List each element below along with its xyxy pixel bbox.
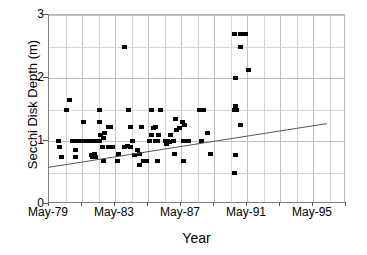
x-tick-label: May-83 [79, 206, 149, 219]
x-tick-mark [312, 202, 313, 206]
x-axis-tick-labels: May-79May-83May-87May-91May-95 [48, 206, 345, 226]
y-axis-tick-labels: 0123 [0, 14, 44, 203]
x-tick-label: May-91 [211, 206, 281, 219]
x-tick-mark [114, 202, 115, 206]
y-tick-label: 2 [4, 71, 44, 83]
secchi-disk-depth-chart: Secchi Disk Depth (m) 0123 May-79May-83M… [0, 0, 367, 255]
x-tick-label: May-87 [145, 206, 215, 219]
x-tick-mark [246, 202, 247, 206]
x-tick-mark [345, 202, 346, 206]
x-tick-mark [48, 202, 49, 206]
x-tick-mark [147, 202, 148, 206]
trendline [48, 14, 345, 203]
y-tick-label: 3 [4, 8, 44, 20]
x-tick-label: May-95 [277, 206, 347, 219]
x-tick-mark [81, 202, 82, 206]
x-tick-mark [213, 202, 214, 206]
y-tick-label: 1 [4, 134, 44, 146]
x-tick-mark [279, 202, 280, 206]
x-tick-mark [180, 202, 181, 206]
x-tick-label: May-79 [13, 206, 83, 219]
x-axis-title: Year [48, 230, 345, 246]
